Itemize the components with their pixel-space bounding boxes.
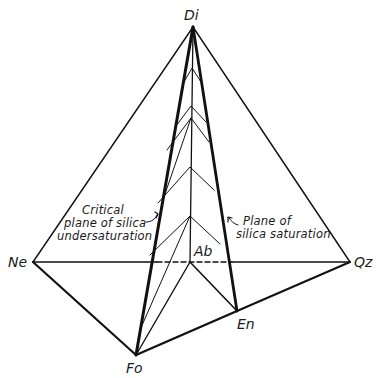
edge-di-ab <box>190 27 193 262</box>
critical-line-3: undersaturation <box>57 230 152 243</box>
saturation-line-2: silica saturation <box>236 228 331 241</box>
annotation-critical-plane: Critical plane of silica <box>72 204 156 230</box>
vertex-label-en: En <box>237 317 255 331</box>
diagram-canvas: Di Ne Qz Ab Fo En Critical plane of sili… <box>0 0 379 378</box>
vertex-label-qz: Qz <box>354 255 372 269</box>
edge-di-en-bold <box>193 27 237 311</box>
vertex-label-di: Di <box>184 8 199 22</box>
edge-ne-fo <box>33 262 136 355</box>
tetrahedron-diagram <box>0 0 379 378</box>
vertex-label-ne: Ne <box>8 255 27 269</box>
edge-fo-en <box>136 311 237 355</box>
vertex-label-ab: Ab <box>194 244 212 258</box>
vertex-label-fo: Fo <box>126 361 143 375</box>
leader-saturation-plane <box>229 218 238 225</box>
annotation-saturation-plane: Plane of silica saturation <box>240 215 331 241</box>
edge-en-qz <box>237 262 350 311</box>
